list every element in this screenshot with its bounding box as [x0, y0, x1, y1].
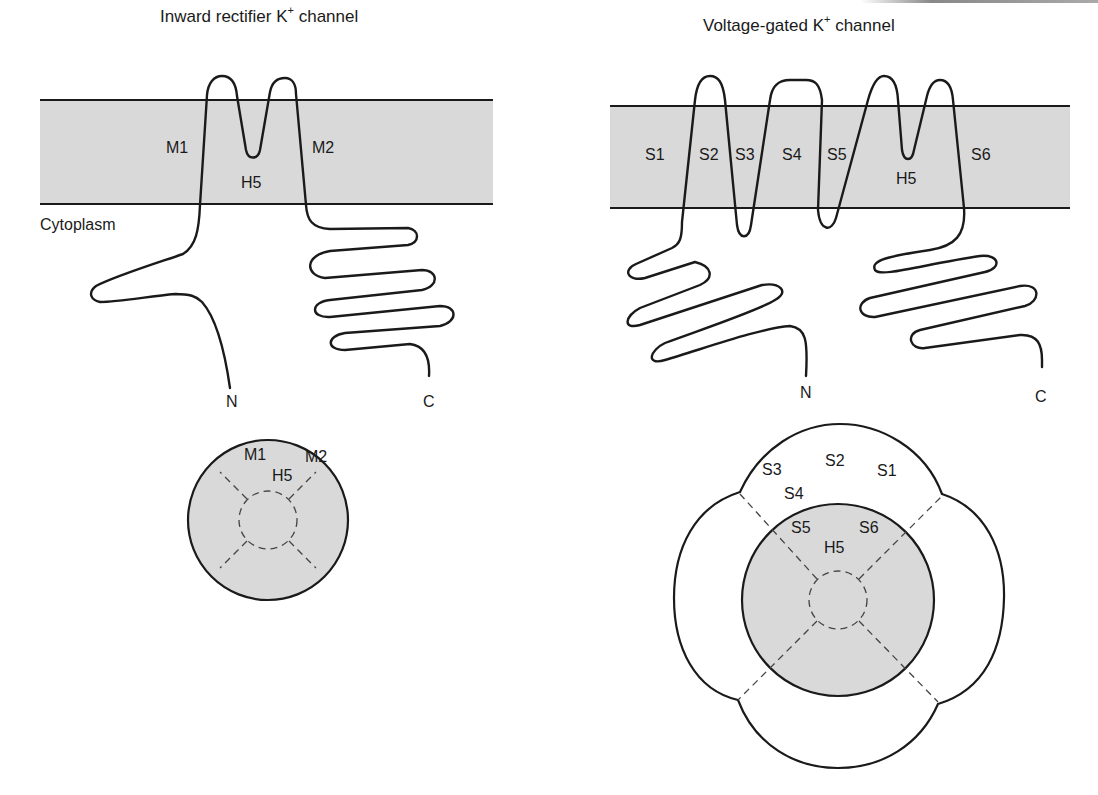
- segment-h5: H5: [241, 174, 262, 191]
- segment-s6: S6: [971, 146, 991, 163]
- segment-m2: M2: [312, 139, 334, 156]
- topview-h5: H5: [824, 539, 845, 556]
- segment-m1: M1: [166, 139, 188, 156]
- segment-s5: S5: [827, 146, 847, 163]
- topview-m1: M1: [244, 446, 266, 463]
- cytoplasm-label: Cytoplasm: [40, 216, 116, 233]
- topview-s5: S5: [791, 519, 811, 536]
- topview-s2: S2: [825, 452, 845, 469]
- topview-s6: S6: [859, 519, 879, 536]
- inward-rectifier-panel: Inward rectifier K+ channel Cytoplasm M1…: [40, 4, 493, 600]
- topview-s4: S4: [784, 485, 804, 502]
- topview-m2: M2: [305, 448, 327, 465]
- topview-s1: S1: [877, 462, 897, 479]
- voltage-gated-top-view: S3 S2 S1 S4 S5 S6 H5: [674, 424, 1004, 768]
- c-terminus-label: C: [1035, 388, 1047, 405]
- potassium-channel-diagram: Inward rectifier K+ channel Cytoplasm M1…: [0, 0, 1098, 795]
- voltage-gated-title: Voltage-gated K+ channel: [703, 13, 895, 35]
- inward-rectifier-title: Inward rectifier K+ channel: [160, 4, 358, 26]
- segment-s2: S2: [699, 146, 719, 163]
- topview-h5: H5: [272, 467, 293, 484]
- n-terminus-label: N: [800, 384, 812, 401]
- inward-rectifier-top-view: M1 M2 H5: [188, 440, 348, 600]
- segment-s1: S1: [645, 146, 665, 163]
- segment-s4: S4: [782, 146, 802, 163]
- segment-s3: S3: [735, 146, 755, 163]
- n-terminus-label: N: [226, 393, 238, 410]
- topview-s3: S3: [762, 461, 782, 478]
- segment-h5: H5: [896, 170, 917, 187]
- c-terminus-label: C: [423, 393, 435, 410]
- voltage-gated-panel: Voltage-gated K+ channel S1 S2 S3 S4 S5 …: [610, 13, 1070, 768]
